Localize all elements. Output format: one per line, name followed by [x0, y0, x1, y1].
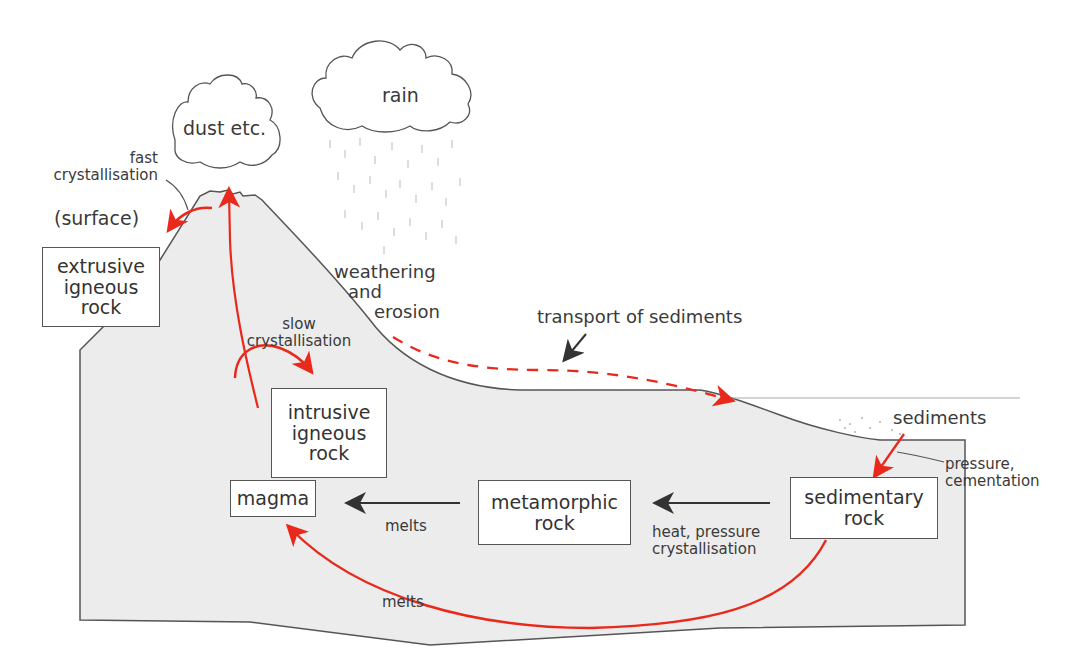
weathering-line2: and	[334, 282, 440, 302]
fast-crystallisation-line2: crystallisation	[30, 167, 158, 184]
extrusive-igneous-rock-box: extrusive igneous rock	[42, 247, 160, 327]
slow-crystallisation-line1: slow	[228, 316, 370, 333]
intrusive-line3: rock	[288, 443, 371, 464]
ground-landscape	[80, 190, 965, 645]
sedimentary-line1: sedimentary	[804, 487, 923, 508]
pressure-line1: pressure,	[945, 456, 1040, 473]
metamorphic-rock-box: metamorphic rock	[478, 480, 631, 545]
rain-streaks	[330, 138, 460, 254]
extrusive-line1: extrusive	[57, 256, 145, 277]
sedimentary-rock-box: sedimentary rock	[790, 477, 938, 539]
heat-pressure-line1: heat, pressure	[652, 524, 760, 541]
pressure-cementation-label: pressure, cementation	[945, 456, 1040, 490]
metamorphic-line2: rock	[491, 513, 618, 534]
extrusive-line2: igneous	[57, 277, 145, 298]
magma-box: magma	[230, 480, 316, 517]
intrusive-line2: igneous	[288, 423, 371, 444]
transport-pointer	[566, 334, 586, 358]
fast-crystallisation-line1: fast	[30, 150, 158, 167]
intrusive-line1: intrusive	[288, 402, 371, 423]
fast-crystallisation-leader	[166, 180, 188, 210]
heat-pressure-line2: crystallisation	[652, 541, 760, 558]
surface-label: (surface)	[54, 208, 139, 229]
melts-upper-label: melts	[385, 518, 427, 535]
weathering-erosion-label: weathering and erosion	[334, 262, 440, 322]
heat-pressure-label: heat, pressure crystallisation	[652, 524, 760, 558]
pressure-line2: cementation	[945, 473, 1040, 490]
dust-cloud-label: dust etc.	[183, 118, 266, 139]
transport-label: transport of sediments	[537, 307, 742, 327]
slow-crystallisation-label: slow crystallisation	[228, 316, 370, 350]
intrusive-igneous-rock-box: intrusive igneous rock	[271, 388, 387, 478]
extrusive-line3: rock	[57, 297, 145, 318]
melts-lower-label: melts	[382, 594, 424, 611]
rain-cloud-label: rain	[382, 85, 419, 106]
sediment-dots	[839, 417, 901, 435]
metamorphic-line1: metamorphic	[491, 492, 618, 513]
weathering-line1: weathering	[334, 262, 440, 282]
rock-cycle-diagram	[0, 0, 1091, 659]
slow-crystallisation-line2: crystallisation	[228, 333, 370, 350]
sedimentary-line2: rock	[804, 508, 923, 529]
sediments-label: sediments	[893, 408, 986, 428]
fast-crystallisation-label: fast crystallisation	[30, 150, 158, 184]
